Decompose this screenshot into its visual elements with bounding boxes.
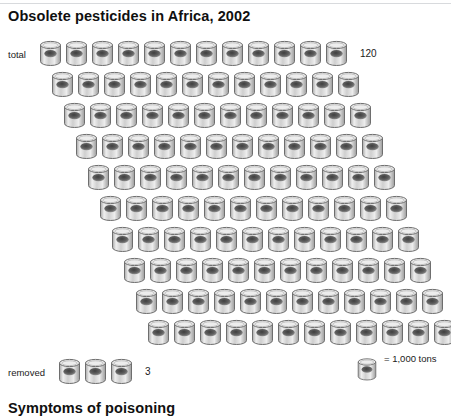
barrel-icon	[57, 358, 82, 384]
barrel-icon	[116, 40, 141, 66]
barrel-icon	[308, 133, 333, 159]
barrel-icon	[304, 257, 329, 283]
barrel-icon	[126, 133, 151, 159]
barrel-icon	[242, 164, 267, 190]
barrel-icon	[74, 133, 99, 159]
barrel-icon	[83, 358, 108, 384]
row-value-total: 120	[360, 48, 377, 59]
barrel-icon	[152, 133, 177, 159]
barrel-icon	[280, 195, 305, 221]
barrel-icon	[322, 102, 347, 128]
barrel-icon	[290, 288, 315, 314]
barrel-icon	[258, 71, 283, 97]
pictogram-row-total-1	[38, 40, 350, 66]
barrel-icon	[204, 133, 229, 159]
barrel-icon	[164, 164, 189, 190]
barrel-icon	[180, 71, 205, 97]
barrel-icon	[124, 195, 149, 221]
barrel-icon	[252, 257, 277, 283]
barrel-icon	[64, 40, 89, 66]
barrel-icon	[216, 164, 241, 190]
barrel-icon	[190, 164, 215, 190]
barrel-icon	[372, 164, 397, 190]
barrel-icon	[246, 40, 271, 66]
barrel-icon	[380, 319, 405, 345]
barrel-icon	[228, 195, 253, 221]
barrel-icon	[240, 226, 265, 252]
barrel-icon	[306, 195, 331, 221]
pictogram-row-total-6	[98, 195, 410, 221]
barrel-icon	[356, 257, 381, 283]
pictogram-row-total-3	[62, 102, 374, 128]
barrel-icon	[232, 71, 257, 97]
barrel-icon	[90, 40, 115, 66]
barrel-icon	[100, 133, 125, 159]
barrel-icon	[230, 133, 255, 159]
barrel-icon	[254, 195, 279, 221]
barrel-icon	[110, 226, 135, 252]
barrel-icon	[382, 257, 407, 283]
barrel-icon	[264, 288, 289, 314]
barrel-icon	[278, 257, 303, 283]
barrel-icon	[332, 195, 357, 221]
legend-text: = 1,000 tons	[384, 353, 437, 364]
barrel-icon	[346, 164, 371, 190]
barrel-icon	[316, 288, 341, 314]
barrel-icon	[394, 288, 419, 314]
barrel-icon	[270, 102, 295, 128]
barrel-icon	[342, 288, 367, 314]
barrel-icon	[420, 288, 445, 314]
barrel-icon	[368, 288, 393, 314]
legend: = 1,000 tons	[356, 357, 437, 383]
barrel-icon	[226, 257, 251, 283]
barrel-icon	[370, 226, 395, 252]
row-label-total: total	[8, 49, 26, 60]
barrel-icon	[200, 257, 225, 283]
barrel-icon	[218, 102, 243, 128]
barrel-icon	[160, 288, 185, 314]
barrel-icon	[294, 164, 319, 190]
barrel-icon	[174, 257, 199, 283]
section-title-symptoms: Symptoms of poisoning	[8, 400, 175, 416]
barrel-icon	[238, 288, 263, 314]
barrel-icon	[186, 288, 211, 314]
barrel-icon	[134, 288, 159, 314]
barrel-icon	[298, 40, 323, 66]
barrel-icon	[360, 133, 385, 159]
barrel-icon	[162, 226, 187, 252]
barrel-icon	[198, 319, 223, 345]
barrel-icon	[112, 164, 137, 190]
barrel-icon	[244, 102, 269, 128]
barrel-icon	[318, 226, 343, 252]
barrel-icon	[220, 40, 245, 66]
barrel-icon	[250, 319, 275, 345]
pictogram-row-total-8	[122, 257, 434, 283]
pictogram-row-total-7	[110, 226, 422, 252]
barrel-icon	[256, 133, 281, 159]
barrel-icon	[408, 257, 433, 283]
barrel-icon	[406, 319, 431, 345]
barrel-icon	[128, 71, 153, 97]
barrel-icon	[354, 319, 379, 345]
barrel-icon	[178, 133, 203, 159]
pictogram-row-removed-1	[57, 358, 135, 384]
barrel-icon	[38, 40, 63, 66]
barrel-icon	[86, 164, 111, 190]
barrel-icon	[154, 71, 179, 97]
barrel-icon	[172, 319, 197, 345]
barrel-icon	[176, 195, 201, 221]
barrel-icon	[114, 102, 139, 128]
barrel-icon	[142, 40, 167, 66]
barrel-icon	[284, 71, 309, 97]
barrel-icon	[334, 133, 359, 159]
barrel-icon	[330, 257, 355, 283]
barrel-icon	[140, 102, 165, 128]
barrel-icon	[138, 164, 163, 190]
row-label-removed: removed	[8, 367, 45, 378]
barrel-icon	[320, 164, 345, 190]
barrel-icon	[214, 226, 239, 252]
barrel-icon	[76, 71, 101, 97]
barrel-icon	[396, 226, 421, 252]
pictogram-row-total-2	[50, 71, 362, 97]
barrel-icon	[296, 102, 321, 128]
